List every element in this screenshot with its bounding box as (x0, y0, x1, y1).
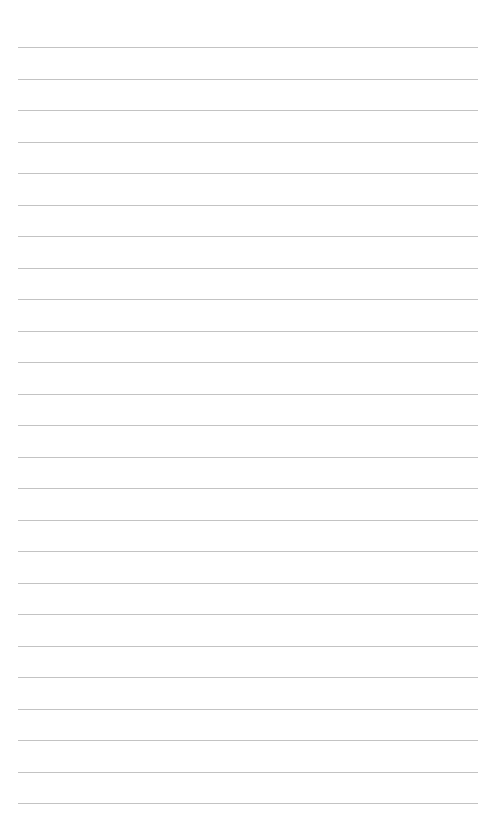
ruled-line (18, 646, 478, 647)
ruled-line (18, 803, 478, 804)
ruled-line (18, 110, 478, 111)
ruled-line (18, 173, 478, 174)
ruled-line (18, 709, 478, 710)
ruled-line (18, 488, 478, 489)
ruled-line (18, 299, 478, 300)
ruled-line (18, 551, 478, 552)
ruled-line (18, 772, 478, 773)
ruled-line (18, 677, 478, 678)
ruled-line (18, 205, 478, 206)
ruled-line (18, 268, 478, 269)
ruled-line (18, 236, 478, 237)
ruled-line (18, 740, 478, 741)
ruled-line (18, 142, 478, 143)
ruled-line (18, 520, 478, 521)
ruled-line (18, 425, 478, 426)
lined-paper-sheet (0, 0, 497, 838)
ruled-line (18, 583, 478, 584)
ruled-line (18, 362, 478, 363)
ruled-line (18, 331, 478, 332)
ruled-line (18, 614, 478, 615)
ruled-line (18, 394, 478, 395)
ruled-line (18, 79, 478, 80)
ruled-line (18, 47, 478, 48)
ruled-line (18, 457, 478, 458)
